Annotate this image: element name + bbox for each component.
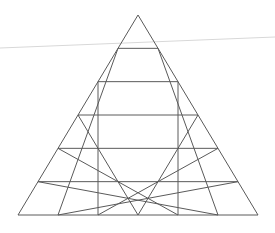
triangle-grid (0, 0, 275, 233)
scan-artifact-line (0, 37, 275, 48)
diagram-canvas (0, 0, 275, 233)
